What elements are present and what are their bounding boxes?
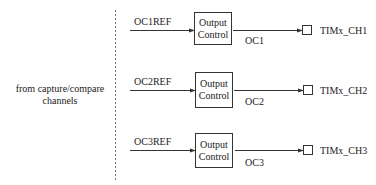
source-label-line2: channels <box>10 95 110 107</box>
pin-label-2: TIMx_CH2 <box>320 85 367 96</box>
out-label-2: OC2 <box>245 96 264 107</box>
out-label-3: OC3 <box>245 157 264 168</box>
ref-label-2: OC2REF <box>134 76 171 87</box>
source-label-line1: from capture/compare <box>10 83 110 95</box>
pin-square-1 <box>303 26 312 35</box>
block-label-line2: Control <box>199 151 230 163</box>
out-label-1: OC1 <box>245 35 264 46</box>
output-control-block-2: Output Control <box>195 72 233 108</box>
pin-label-3: TIMx_CH3 <box>320 145 367 156</box>
ref-label-3: OC3REF <box>134 136 171 147</box>
block-label-line1: Output <box>200 78 228 90</box>
pin-square-2 <box>304 86 313 95</box>
block-label-line1: Output <box>199 17 227 29</box>
block-label-line1: Output <box>200 139 228 151</box>
ref-label-1: OC1REF <box>134 16 171 27</box>
output-control-block-3: Output Control <box>195 133 233 168</box>
block-label-line2: Control <box>198 29 229 41</box>
pin-square-3 <box>304 146 313 155</box>
source-label: from capture/compare channels <box>10 83 110 107</box>
output-control-block-1: Output Control <box>194 12 232 45</box>
block-label-line2: Control <box>199 90 230 102</box>
pin-label-1: TIMx_CH1 <box>320 25 367 36</box>
